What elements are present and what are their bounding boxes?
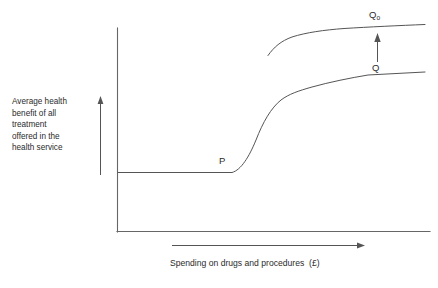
y-axis-label-line-4: offered in the [12, 131, 92, 143]
y-axis-label-line-2: benefit of all [12, 108, 92, 120]
y-axis-label-line-3: treatment [12, 119, 92, 131]
label-q: Q [372, 62, 379, 73]
x-direction-arrow-icon [172, 243, 365, 249]
upper-curve [268, 25, 425, 56]
x-axis-label: Spending on drugs and procedures (£) [170, 258, 320, 268]
lower-curve [118, 72, 425, 173]
label-q-zero: Qo [369, 9, 380, 20]
gap-arrow-icon [374, 33, 380, 62]
y-axis-label-line-1: Average health [12, 96, 92, 108]
y-axis-label: Average health benefit of all treatment … [12, 96, 92, 154]
y-direction-arrow-icon [98, 96, 104, 175]
label-p: P [219, 155, 225, 166]
diagram-canvas: Average health benefit of all treatment … [0, 0, 438, 288]
y-axis-label-line-5: health service [12, 142, 92, 154]
label-q-zero-subscript: o [376, 14, 380, 21]
